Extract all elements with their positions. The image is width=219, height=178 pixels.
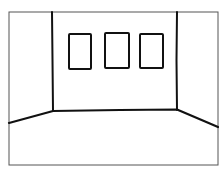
room-drawing: [0, 0, 219, 178]
right-wall-corner-line: [177, 12, 178, 110]
outer-border: [9, 12, 218, 165]
room-sketch: [0, 0, 219, 178]
left-wall-corner-line: [52, 12, 53, 111]
